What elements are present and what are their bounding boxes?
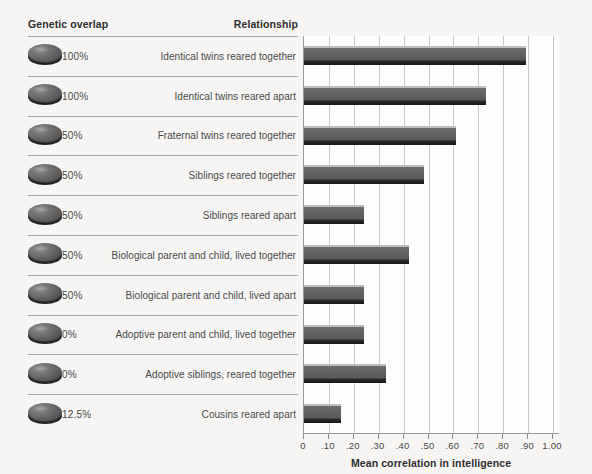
genetic-overlap-cell: 100% [28,84,94,108]
x-axis-tick-label: .40 [396,440,410,451]
x-axis-tick-label: .10 [321,440,335,451]
genetic-overlap-value: 12.5% [62,409,91,420]
gridline [528,36,529,434]
table-row[interactable]: 50%Biological parent and child, lived ap… [28,275,298,315]
genetic-overlap-value: 50% [62,290,83,301]
disc-highlight [33,405,50,412]
x-axis-tick-label: .30 [371,440,385,451]
bar[interactable] [304,86,486,105]
genetic-overlap-value: 0% [62,329,77,340]
bar[interactable] [304,245,409,264]
x-axis-tick-label: 1.00 [542,440,561,451]
genetic-disc-icon [28,44,62,68]
plot-area [303,36,559,434]
gridline [553,36,554,434]
disc-highlight [33,365,50,372]
x-axis-title: Mean correlation in intelligence [303,457,559,469]
genetic-overlap-cell: 0% [28,323,94,347]
x-axis-tick [303,434,304,439]
relationship-label: Fraternal twins reared together [94,130,298,141]
genetic-overlap-cell: 50% [28,164,94,188]
relationship-label: Biological parent and child, lived toget… [94,250,298,261]
x-axis-tick-label: .70 [470,440,484,451]
genetic-overlap-cell: 50% [28,204,94,228]
table-row[interactable]: 100%Identical twins reared apart [28,76,298,116]
x-axis-tick [328,434,329,439]
table-row[interactable]: 0%Adoptive siblings, reared together [28,354,298,394]
disc-highlight [33,126,50,133]
x-axis-tick [452,434,453,439]
genetic-overlap-value: 100% [62,51,88,62]
disc-highlight [33,206,50,213]
relationship-label: Siblings reared apart [94,210,298,221]
x-axis-tick [378,434,379,439]
genetic-overlap-value: 50% [62,210,83,221]
x-axis-tick [527,434,528,439]
x-axis-tick [477,434,478,439]
bar[interactable] [304,126,456,145]
plot-bottom-border [303,433,559,434]
bar[interactable] [304,205,364,224]
genetic-disc-icon [28,363,62,387]
x-axis-tick [502,434,503,439]
relationship-label: Siblings reared together [94,170,298,181]
relationship-label: Cousins reared apart [94,409,298,420]
disc-highlight [33,166,50,173]
genetic-disc-icon [28,323,62,347]
genetic-overlap-cell: 50% [28,243,94,267]
x-axis-tick-label: .20 [346,440,360,451]
relationship-label: Biological parent and child, lived apart [94,290,298,301]
bar[interactable] [304,404,341,423]
genetic-disc-icon [28,164,62,188]
genetic-overlap-cell: 50% [28,124,94,148]
x-axis-tick-label: .80 [495,440,509,451]
x-axis-tick [428,434,429,439]
x-axis-tick-label: .90 [520,440,534,451]
relationship-label: Adoptive siblings, reared together [94,369,298,380]
table-row[interactable]: 50%Fraternal twins reared together [28,116,298,156]
bar[interactable] [304,46,526,65]
disc-highlight [33,325,50,332]
relationship-table: 100%Identical twins reared together100%I… [28,36,298,434]
bar[interactable] [304,285,364,304]
table-row[interactable]: 50%Siblings reared apart [28,195,298,235]
x-axis-tick [552,434,553,439]
x-axis-tick-label: .50 [421,440,435,451]
relationship-label: Identical twins reared together [94,51,298,62]
table-row[interactable]: 100%Identical twins reared together [28,36,298,76]
genetic-overlap-value: 50% [62,130,83,141]
genetic-disc-icon [28,243,62,267]
table-row[interactable]: 0%Adoptive parent and child, lived toget… [28,315,298,355]
x-axis-tick [403,434,404,439]
x-axis-tick [353,434,354,439]
relationship-label: Adoptive parent and child, lived togethe… [94,329,298,340]
genetic-overlap-cell: 100% [28,44,94,68]
table-row[interactable]: 50%Biological parent and child, lived to… [28,235,298,275]
genetic-disc-icon [28,283,62,307]
genetic-overlap-cell: 50% [28,283,94,307]
genetic-overlap-value: 0% [62,369,77,380]
bar[interactable] [304,165,424,184]
gridline [503,36,504,434]
column-header-relationship: Relationship [96,18,298,30]
table-row[interactable]: 50%Siblings reared together [28,155,298,195]
chart-figure: Genetic overlap Relationship 100%Identic… [0,0,592,474]
genetic-disc-icon [28,403,62,427]
relationship-label: Identical twins reared apart [94,91,298,102]
genetic-overlap-cell: 0% [28,363,94,387]
genetic-overlap-cell: 12.5% [28,403,94,427]
genetic-overlap-value: 50% [62,170,83,181]
genetic-disc-icon [28,84,62,108]
genetic-disc-icon [28,204,62,228]
x-axis-tick-label: .60 [445,440,459,451]
bar[interactable] [304,364,386,383]
x-axis-tick-label: 0 [300,440,305,451]
genetic-overlap-value: 50% [62,250,83,261]
genetic-overlap-value: 100% [62,91,88,102]
genetic-disc-icon [28,124,62,148]
bar[interactable] [304,325,364,344]
table-row[interactable]: 12.5%Cousins reared apart [28,394,298,434]
